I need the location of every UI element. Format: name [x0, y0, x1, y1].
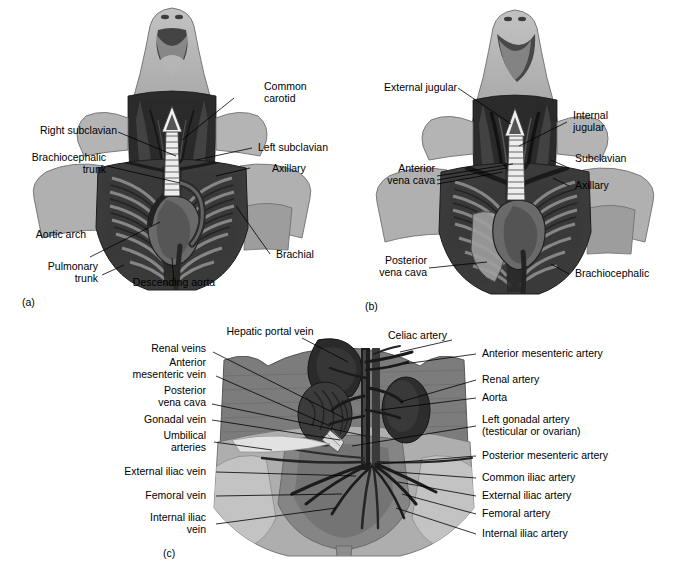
label-anterior-mesenteric-vein: Anterior mesenteric vein — [88, 357, 206, 380]
label-anterior-vena-cava: Anterior vena cava — [353, 163, 435, 186]
label-umbilical-arteries: Umbilical arteries — [96, 430, 206, 453]
label-subclavian-b: Subclavian — [575, 153, 649, 165]
label-internal-iliac-vein: Internal iliac vein — [96, 512, 206, 535]
label-common-iliac-artery: Common iliac artery — [482, 472, 628, 484]
label-femoral-vein: Femoral vein — [90, 490, 206, 502]
anatomy-figure: Right subclavian Brachiocephalic trunk A… — [0, 0, 687, 578]
label-brachiocephalic-trunk: Brachiocephalic trunk — [2, 152, 106, 175]
panel-a-tag: (a) — [22, 296, 35, 308]
label-renal-veins: Renal veins — [98, 343, 206, 355]
panel-c-tag: (c) — [163, 547, 175, 559]
label-right-subclavian-text: Right subclavian — [40, 124, 117, 136]
label-posterior-vena-cava-b: Posterior vena cava — [347, 255, 427, 278]
label-gonadal-vein: Gonadal vein — [94, 414, 206, 426]
label-celiac-artery: Celiac artery — [388, 330, 480, 342]
label-common-carotid: Common carotid — [264, 81, 342, 104]
label-left-subclavian: Left subclavian — [258, 142, 348, 154]
label-axillary-a: Axillary — [272, 163, 342, 175]
label-external-iliac-vein: External iliac vein — [78, 466, 206, 478]
label-hepatic-portal-vein: Hepatic portal vein — [206, 326, 334, 338]
label-femoral-artery: Femoral artery — [482, 508, 604, 520]
label-renal-artery: Renal artery — [482, 374, 592, 386]
label-posterior-mesenteric-artery: Posterior mesenteric artery — [482, 450, 652, 462]
panel-b-thoracic-veins: External jugular Anterior vena cava Post… — [345, 0, 687, 318]
label-external-jugular: External jugular — [361, 82, 457, 94]
label-internal-iliac-artery: Internal iliac artery — [482, 528, 628, 540]
label-axillary-b: Axillary — [575, 180, 635, 192]
label-aortic-arch: Aortic arch — [8, 229, 86, 241]
label-aorta: Aorta — [482, 392, 562, 404]
label-right-subclavian: Right subclavian — [13, 125, 117, 137]
label-external-iliac-artery: External iliac artery — [482, 490, 628, 502]
panel-b-tag: (b) — [365, 300, 378, 312]
label-internal-jugular: Internal jugular — [573, 110, 643, 133]
label-left-gonadal-artery: Left gonadal artery (testicular or ovari… — [482, 414, 652, 437]
label-anterior-mesenteric-artery: Anterior mesenteric artery — [482, 348, 642, 360]
label-posterior-vena-cava-c: Posterior vena cava — [100, 385, 206, 408]
label-descending-aorta: Descending aorta — [118, 277, 230, 289]
panel-c-abdominal-vessels: Hepatic portal vein Celiac artery Renal … — [0, 318, 687, 578]
panel-a-thoracic-arteries: Right subclavian Brachiocephalic trunk A… — [0, 0, 345, 318]
label-brachiocephalic-b: Brachiocephalic — [575, 268, 667, 280]
label-pulmonary-trunk: Pulmonary trunk — [12, 261, 98, 284]
label-brachial: Brachial — [276, 249, 336, 261]
right-kidney — [382, 377, 430, 443]
